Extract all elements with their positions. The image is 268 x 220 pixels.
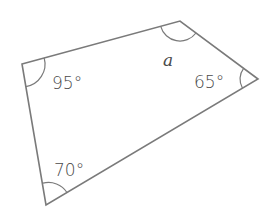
angle-label-right: 65°: [194, 72, 224, 92]
angle-label-bottom-left: 70°: [54, 160, 84, 180]
quadrilateral-diagram: 95° a 65° 70°: [0, 0, 268, 220]
angle-arc-bottom-left: [43, 182, 67, 192]
angle-label-top-right: a: [163, 50, 173, 70]
angle-label-top-left: 95°: [52, 73, 82, 93]
angle-arc-right: [240, 68, 244, 88]
diagram-svg: 95° a 65° 70°: [0, 0, 268, 220]
